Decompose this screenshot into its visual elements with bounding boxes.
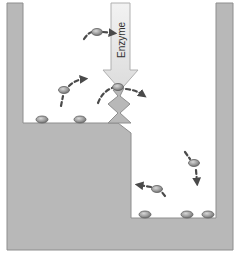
molecule-m2 xyxy=(59,87,70,94)
molecule-m9 xyxy=(181,211,193,218)
motion-arrow-m7-in xyxy=(161,191,165,196)
motion-arrow-m6-out xyxy=(196,170,197,182)
molecule-m1 xyxy=(92,29,103,36)
molecule-m8 xyxy=(139,211,151,218)
molecule-m5 xyxy=(74,116,86,123)
molecule-m6 xyxy=(189,160,200,167)
molecule-m10 xyxy=(202,211,214,218)
motion-arrow-m3-in xyxy=(98,88,112,103)
molecule-m3 xyxy=(113,84,124,91)
motion-arrow-m1 xyxy=(84,32,92,39)
motion-arrow-m1-out xyxy=(103,32,113,33)
motion-arrow-m6-in xyxy=(185,152,190,159)
molecule-m4 xyxy=(36,116,48,123)
enzyme-arrow: Enzyme xyxy=(103,3,138,90)
enzyme-barrier-diagram: Enzyme xyxy=(0,0,236,257)
enzyme-label: Enzyme xyxy=(116,21,127,58)
activation-barrier-zigzag xyxy=(108,88,131,123)
molecule-m7 xyxy=(152,186,163,193)
motion-arrow-m2-in xyxy=(61,96,63,106)
motion-arrow-m7-out xyxy=(139,185,151,187)
motion-arrow-m3-out xyxy=(126,89,143,95)
motion-arrow-m2-out xyxy=(69,79,84,86)
